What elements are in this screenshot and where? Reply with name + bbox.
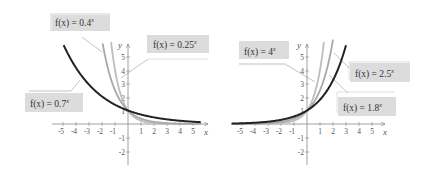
svg-text:-2: -2 (276, 127, 282, 136)
svg-text:3: 3 (121, 80, 125, 89)
label-f-2.5: f(x) = 2.5x (355, 68, 394, 80)
svg-text:-5: -5 (237, 127, 243, 136)
svg-text:4: 4 (357, 127, 361, 136)
svg-text:-2: -2 (298, 148, 304, 157)
svg-text:3: 3 (165, 127, 169, 136)
svg-text:5: 5 (370, 127, 374, 136)
label-f-1.8: f(x) = 1.8x (343, 102, 382, 114)
svg-text:-3: -3 (263, 127, 269, 136)
svg-text:2: 2 (331, 127, 335, 136)
svg-text:-1: -1 (110, 127, 116, 136)
svg-text:5: 5 (191, 127, 195, 136)
label-box-0.4: f(x) = 0.4x (50, 13, 110, 52)
svg-text:-2: -2 (97, 127, 103, 136)
svg-text:4: 4 (178, 127, 182, 136)
label-f-0.4: f(x) = 0.4x (55, 17, 94, 29)
svg-text:-2: -2 (119, 148, 125, 157)
label-f-0.7: f(x) = 0.7x (30, 98, 69, 110)
label-box-0.7: f(x) = 0.7x (25, 80, 83, 112)
svg-text:2: 2 (300, 94, 304, 103)
left-graph: f(x) = 0.4x f(x) = 0.25x f(x) = 0.7x -5-… (25, 13, 209, 165)
svg-text:1: 1 (139, 127, 143, 136)
right-y-label: y (296, 40, 301, 50)
svg-text:-1: -1 (298, 134, 304, 143)
svg-text:5: 5 (300, 53, 304, 62)
right-graph: f(x) = 4x f(x) = 2.5x f(x) = 1.8x -5-4 -… (232, 40, 410, 165)
left-x-label: x (203, 127, 208, 137)
svg-text:2: 2 (152, 127, 156, 136)
label-box-2.5: f(x) = 2.5x (334, 53, 410, 82)
svg-text:1: 1 (318, 127, 322, 136)
svg-text:3: 3 (344, 127, 348, 136)
svg-text:5: 5 (121, 53, 125, 62)
svg-text:-4: -4 (250, 127, 256, 136)
svg-text:3: 3 (300, 80, 304, 89)
svg-text:-1: -1 (119, 134, 125, 143)
svg-text:-3: -3 (84, 127, 90, 136)
right-x-label: x (382, 127, 387, 137)
label-f-0.25: f(x) = 0.25x (153, 39, 197, 51)
svg-text:4: 4 (121, 67, 125, 76)
label-box-0.25: f(x) = 0.25x (121, 35, 209, 78)
left-y-label: y (117, 40, 122, 50)
svg-text:4: 4 (300, 67, 304, 76)
svg-text:-1: -1 (289, 127, 295, 136)
svg-text:-4: -4 (71, 127, 77, 136)
curve-0.7 (64, 45, 201, 122)
svg-text:-5: -5 (58, 127, 64, 136)
exponential-graphs: f(x) = 0.4x f(x) = 0.25x f(x) = 0.7x -5-… (0, 0, 427, 175)
label-f-4: f(x) = 4x (244, 46, 276, 58)
